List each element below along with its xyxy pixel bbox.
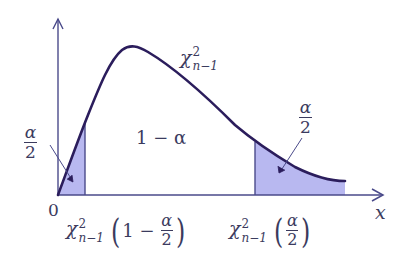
left-area-denominator: 2: [25, 144, 36, 161]
right-area-numerator: α: [300, 99, 311, 116]
right-quantile-label: χ2n−1 (α2): [229, 213, 313, 248]
curve-label-sub: n−1: [193, 60, 218, 72]
right-area-denominator: 2: [300, 119, 311, 136]
curve-label: χ2n−1: [180, 46, 218, 72]
x-axis-label: x: [375, 203, 386, 222]
curve-label-sup: 2: [193, 46, 218, 58]
left-quantile-label: χ2n−1 (1 − α2): [66, 213, 187, 248]
curve-label-chi: χ: [180, 46, 192, 68]
left-area-numerator: α: [25, 124, 36, 141]
left-tail-area-label: α2: [24, 124, 37, 161]
origin-label: 0: [48, 202, 59, 219]
center-region-label: 1 − α: [136, 129, 186, 147]
right-tail-area-label: α2: [299, 99, 312, 136]
chi-square-diagram: [0, 0, 407, 269]
